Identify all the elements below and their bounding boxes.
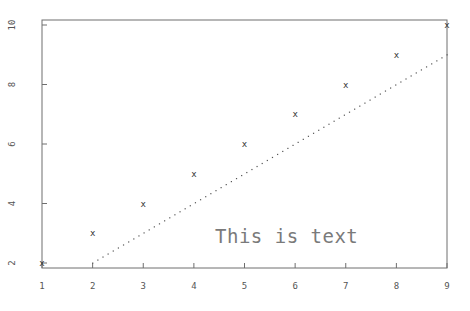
line-dot <box>133 238 134 239</box>
line-dot <box>375 97 376 98</box>
y-tick-label: 8 <box>7 82 17 87</box>
line-dot <box>159 223 160 224</box>
line-dot <box>277 154 278 155</box>
line-dot <box>354 109 355 110</box>
x-axis-ticks: 123456789 <box>39 263 449 291</box>
line-dot <box>369 100 370 101</box>
line-dot <box>426 66 427 67</box>
x-tick-label: 7 <box>343 281 348 291</box>
line-dot <box>138 235 139 236</box>
line-dot <box>195 202 196 203</box>
x-tick-label: 1 <box>39 281 44 291</box>
line-dot <box>298 142 299 143</box>
line-dot <box>231 181 232 182</box>
line-dot <box>179 211 180 212</box>
line-dot <box>431 63 432 64</box>
line-dot <box>334 121 335 122</box>
line-dot <box>328 124 329 125</box>
line-dot <box>118 247 119 248</box>
line-dot <box>416 72 417 73</box>
line-dot <box>287 148 288 149</box>
line-dot <box>215 190 216 191</box>
y-tick-label: 6 <box>7 141 17 146</box>
line-dot <box>390 87 391 88</box>
line-dot <box>421 69 422 70</box>
line-dot <box>359 106 360 107</box>
line-dot <box>113 250 114 251</box>
point-marker: x <box>394 50 400 60</box>
line-dot <box>190 205 191 206</box>
line-dot <box>241 175 242 176</box>
line-dot <box>108 253 109 254</box>
line-dot <box>303 139 304 140</box>
x-tick-label: 9 <box>444 281 449 291</box>
line-dot <box>149 229 150 230</box>
line-dot <box>97 259 98 260</box>
line-dot <box>154 226 155 227</box>
line-dot <box>344 115 345 116</box>
line-dot <box>256 166 257 167</box>
line-dot <box>400 81 401 82</box>
line-dot <box>385 90 386 91</box>
line-dot <box>436 60 437 61</box>
line-dot <box>143 232 144 233</box>
line-dot <box>308 136 309 137</box>
line-dot <box>128 241 129 242</box>
line-dot <box>246 172 247 173</box>
line-dot <box>226 184 227 185</box>
point-marker: x <box>242 139 248 149</box>
x-tick-label: 2 <box>90 281 95 291</box>
line-dot <box>349 112 350 113</box>
y-tick-label: 10 <box>7 20 17 31</box>
line-dot <box>205 196 206 197</box>
x-tick-label: 3 <box>141 281 146 291</box>
line-dot <box>221 187 222 188</box>
point-marker: x <box>292 109 298 119</box>
point-marker: x <box>39 258 45 268</box>
line-dot <box>169 217 170 218</box>
line-dot <box>313 133 314 134</box>
x-tick-label: 8 <box>394 281 399 291</box>
line-dot <box>405 78 406 79</box>
line-dot <box>318 130 319 131</box>
line-dot <box>323 127 324 128</box>
x-tick-label: 5 <box>242 281 247 291</box>
point-marker: x <box>90 228 96 238</box>
line-dot <box>292 145 293 146</box>
y-axis-ticks: 246810 <box>7 20 47 266</box>
point-marker: x <box>444 20 450 30</box>
x-tick-label: 6 <box>292 281 297 291</box>
point-marker: x <box>141 199 147 209</box>
line-dot <box>174 214 175 215</box>
line-dot <box>272 157 273 158</box>
line-dot <box>251 169 252 170</box>
line-dot <box>164 220 165 221</box>
line-dot <box>210 193 211 194</box>
line-dot <box>262 163 263 164</box>
line-dot <box>200 199 201 200</box>
line-dot <box>364 103 365 104</box>
line-dot <box>92 263 93 264</box>
line-dot <box>102 256 103 257</box>
line-dot <box>441 57 442 58</box>
line-dot <box>447 54 448 55</box>
line-dot <box>395 84 396 85</box>
line-dot <box>185 208 186 209</box>
scatter-chart: 123456789 246810 xxxxxxxxx This is text <box>0 0 470 311</box>
line-dot <box>282 151 283 152</box>
line-dot <box>339 118 340 119</box>
annotation-text: This is text <box>215 225 358 247</box>
y-tick-label: 4 <box>7 201 17 206</box>
line-dot <box>411 75 412 76</box>
point-marker: x <box>191 169 197 179</box>
line-dot <box>123 244 124 245</box>
line-dot <box>236 178 237 179</box>
line-dot <box>267 160 268 161</box>
y-tick-label: 2 <box>7 260 17 265</box>
line-dot <box>380 93 381 94</box>
x-tick-label: 4 <box>191 281 196 291</box>
point-marker: x <box>343 80 349 90</box>
